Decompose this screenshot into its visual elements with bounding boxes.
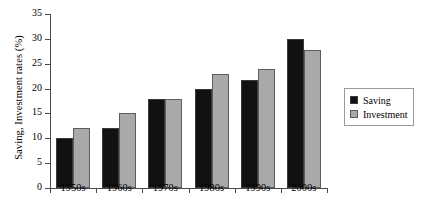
- x-axis-tick: [327, 188, 328, 193]
- bar-investment: [212, 74, 229, 188]
- bar-group: [281, 14, 327, 188]
- y-axis-tick-label: 15: [22, 106, 42, 117]
- legend-swatch-saving-icon: [350, 96, 358, 104]
- x-axis-category-label: 1970s: [142, 182, 188, 193]
- y-axis-tick-label: 20: [22, 82, 42, 93]
- plot-area: 05101520253035: [50, 14, 327, 188]
- legend-swatch-investment-icon: [350, 110, 358, 118]
- bar-investment: [304, 50, 321, 188]
- bar-saving: [148, 99, 165, 188]
- legend-label-saving: Saving: [363, 95, 391, 106]
- bar-investment: [119, 113, 136, 188]
- bar-group: [96, 14, 142, 188]
- bar-saving: [241, 80, 258, 188]
- y-axis-tick-label: 35: [22, 7, 42, 18]
- legend-label-investment: Investment: [363, 109, 407, 120]
- x-axis-category-label: 1990s: [235, 182, 281, 193]
- x-axis-category-label: 1980s: [189, 182, 235, 193]
- y-axis-tick-label: 25: [22, 57, 42, 68]
- bar-saving: [195, 89, 212, 188]
- chart-legend: Saving Investment: [344, 88, 414, 126]
- x-axis-category-label: 1950s: [50, 182, 96, 193]
- bar-group: [142, 14, 188, 188]
- y-axis-tick-label: 0: [22, 181, 42, 192]
- y-axis-tick-label: 10: [22, 131, 42, 142]
- bar-saving: [102, 128, 119, 188]
- y-axis-tick-label: 5: [22, 156, 42, 167]
- bar-saving: [287, 39, 304, 188]
- x-axis-category-label: 1960s: [96, 182, 142, 193]
- bar-group: [50, 14, 96, 188]
- legend-item-saving: Saving: [350, 93, 407, 107]
- bar-investment: [73, 128, 90, 188]
- bar-group: [235, 14, 281, 188]
- bar-investment: [165, 99, 182, 188]
- bar-group: [189, 14, 235, 188]
- x-axis-category-label: 2000s: [281, 182, 327, 193]
- y-axis-tick-label: 30: [22, 32, 42, 43]
- bar-chart-figure: Saving, Investment rates (%) 05101520253…: [0, 0, 434, 223]
- bar-investment: [258, 69, 275, 188]
- legend-item-investment: Investment: [350, 107, 407, 121]
- bar-saving: [56, 138, 73, 188]
